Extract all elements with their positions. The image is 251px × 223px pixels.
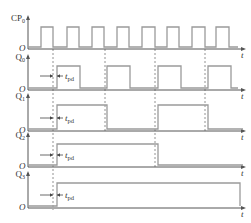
signals: tOCP0tOQ0tOQ1tOQ2tOQ3 bbox=[11, 13, 246, 219]
tpd-label: tpd bbox=[65, 113, 75, 124]
signal-cp0: tOCP0 bbox=[11, 13, 246, 60]
origin-label: O bbox=[19, 202, 26, 212]
waveform bbox=[28, 144, 243, 165]
waveform bbox=[28, 27, 238, 47]
y-axis-arrow-icon bbox=[26, 54, 30, 59]
y-axis-arrow-icon bbox=[26, 93, 30, 98]
y-axis-arrow-icon bbox=[26, 15, 30, 20]
signal-label: Q0 bbox=[16, 52, 26, 63]
time-axis-label: t bbox=[241, 132, 244, 142]
tpd-label: tpd bbox=[65, 71, 75, 82]
arrow-right-icon bbox=[50, 153, 53, 157]
timing-diagram: tOCP0tOQ0tOQ1tOQ2tOQ3 tpdtpdtpdtpd bbox=[0, 0, 251, 223]
tpd-label: tpd bbox=[65, 190, 75, 201]
time-axis-label: t bbox=[241, 168, 244, 178]
time-axis-label: t bbox=[241, 209, 244, 219]
arrow-right-icon bbox=[50, 193, 53, 197]
y-axis-arrow-icon bbox=[26, 171, 30, 176]
arrow-right-icon bbox=[50, 116, 53, 120]
time-axis-label: t bbox=[241, 50, 244, 60]
time-axis-label: t bbox=[241, 91, 244, 101]
tpd-label: tpd bbox=[65, 150, 75, 161]
y-axis-arrow-icon bbox=[26, 132, 30, 137]
arrow-right-icon bbox=[50, 74, 53, 78]
waveform bbox=[28, 105, 243, 129]
signal-label: CP0 bbox=[11, 13, 25, 24]
